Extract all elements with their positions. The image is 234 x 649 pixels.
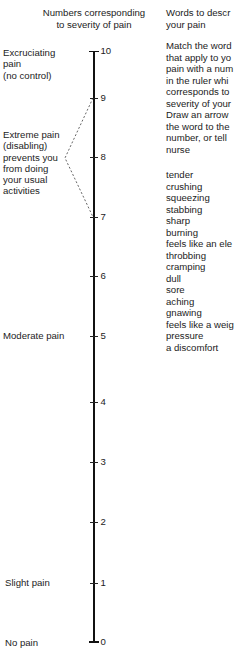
tick-label-0: 0 [101, 636, 106, 648]
tick-label-1: 1 [101, 577, 106, 589]
tick-8 [90, 157, 99, 158]
tick-5 [90, 336, 99, 337]
tick-3 [90, 462, 99, 463]
tick-label-7: 7 [101, 211, 106, 223]
ruler-top-cap [89, 51, 99, 53]
tick-1 [90, 583, 99, 584]
tick-6 [90, 276, 99, 277]
ruler-bottom-cap [89, 641, 99, 643]
tick-2 [90, 522, 99, 523]
tick-label-6: 6 [101, 270, 106, 282]
tick-9 [90, 98, 99, 99]
tick-4 [90, 402, 99, 403]
tick-7 [90, 217, 99, 218]
tick-label-5: 5 [101, 330, 106, 342]
ruler-line [93, 51, 96, 642]
tick-label-3: 3 [101, 456, 106, 468]
tick-label-8: 8 [101, 151, 106, 163]
tick-label-2: 2 [101, 516, 106, 528]
tick-label-10: 10 [101, 45, 112, 57]
tick-label-9: 9 [101, 92, 106, 104]
tick-label-4: 4 [101, 396, 106, 408]
